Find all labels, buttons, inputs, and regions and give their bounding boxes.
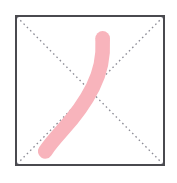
- character-practice-grid[interactable]: [15, 15, 165, 166]
- stroke-practice-screen: [0, 0, 177, 183]
- grid-guide-lines: [17, 17, 163, 164]
